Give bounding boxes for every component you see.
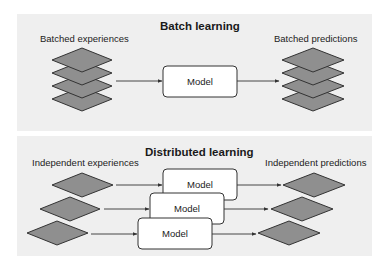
distributed-model-label-2: Model (174, 203, 200, 214)
prediction-diamond (271, 197, 333, 221)
distributed-model-label-3: Model (162, 228, 188, 239)
learning-diagram: Model Model Model Model (0, 0, 390, 263)
prediction-diamond (283, 173, 345, 197)
prediction-diamond (282, 48, 344, 72)
experience-diamond (27, 221, 88, 245)
batched-predictions-stack (282, 48, 344, 111)
independent-predictions (258, 173, 345, 245)
distributed-model-box-3: Model (138, 218, 212, 249)
batch-model-box: Model (163, 66, 237, 97)
distributed-model-label-1: Model (187, 179, 213, 190)
batched-experiences-stack (52, 48, 112, 111)
experience-diamond (40, 197, 100, 221)
batch-model-label: Model (187, 76, 213, 87)
prediction-diamond (258, 221, 320, 245)
experience-diamond (52, 173, 113, 197)
experience-diamond (52, 48, 112, 72)
